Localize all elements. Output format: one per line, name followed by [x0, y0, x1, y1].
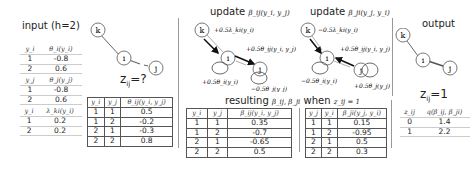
table-row: 20.6	[20, 95, 82, 105]
header-yi: y_i	[88, 98, 105, 108]
cell: 1	[187, 118, 208, 128]
header-yj: y_j	[306, 109, 322, 119]
header-theta-ij: θ_ij(y_i, y_j)	[121, 98, 173, 108]
header-yi: y_i	[321, 109, 337, 119]
cell: 2	[207, 148, 228, 158]
theta-ij-table: y_iy_jθ_ij(y_i, y_j) 110.5 12-0.2 21-0.3…	[87, 97, 173, 147]
label-ij: +0.5θ_ij(y_i, y_j)	[340, 45, 391, 53]
beta-ij-table: y_iy_jβ_ij(y_i, y_j) 110.35 12-0.7 21-0.…	[186, 108, 292, 158]
header-beta-ji: β_ji(y_j, y_i)	[337, 109, 386, 119]
node-i-label: i	[227, 54, 230, 63]
title-math: β_ij(y_i, y_j)	[248, 9, 289, 17]
cell: 0.15	[337, 118, 386, 128]
z-value: =1	[430, 87, 448, 101]
table-row: 210.5	[306, 138, 387, 148]
output-z-label: zij=1	[420, 87, 448, 103]
input-graph: k i j	[85, 18, 165, 78]
cell: 0.6	[40, 64, 82, 74]
beta-ji-table: y_jy_iβ_ji(y_j, y_i) 110.15 12-0.95 210.…	[305, 108, 387, 158]
table-row: 220.8	[88, 137, 173, 147]
cell: 2	[20, 95, 40, 105]
header-theta-j: θ_j(y_j)	[40, 76, 82, 85]
header-theta-i: θ_i(y_i)	[40, 45, 82, 54]
cell: 1	[20, 54, 40, 64]
z-value: =?	[130, 72, 146, 86]
edge-i-j	[236, 61, 246, 65]
cell: 0	[400, 117, 419, 127]
update-left-graph: k i j +0.5λ_ki(y_i) +0.5θ_ij(y_i, y_j) +…	[190, 20, 310, 92]
node-i-label: i	[123, 54, 126, 63]
cell: 0.2	[38, 116, 82, 126]
table-row: 1-0.8	[20, 54, 82, 64]
theta-i-table: y_iθ_i(y_i) 1-0.8 20.6	[20, 45, 82, 74]
header-lambda-ki: λ_ki(y_i)	[38, 107, 82, 116]
cell: 1	[207, 118, 228, 128]
cell: 1	[104, 107, 121, 117]
table-row: 12.2	[400, 127, 470, 137]
table-row: 110.5	[88, 107, 173, 117]
cell: 0.5	[228, 148, 292, 158]
table-row: 12-0.2	[88, 117, 173, 127]
table-row: 10.2	[20, 116, 82, 126]
edge-i-j	[334, 61, 350, 67]
cell: 0.5	[121, 107, 173, 117]
label-ki: −0.5λ_ki(y_i)	[318, 26, 359, 34]
cell: 1	[306, 118, 322, 128]
table-row: 12-0.7	[187, 128, 292, 138]
cell: 1	[20, 85, 40, 95]
message-arrow-i-j	[235, 56, 254, 64]
cell: 0.2	[38, 126, 82, 136]
title-prefix: update	[310, 6, 348, 17]
table-row: 01.4	[400, 117, 470, 127]
cell: 2	[306, 148, 322, 158]
cell: -0.8	[40, 85, 82, 95]
node-k-label: k	[200, 26, 205, 35]
input-title: input (h=2)	[22, 20, 80, 31]
cell: 2	[88, 137, 105, 147]
node-j-label: j	[448, 64, 451, 73]
edge-k-i	[99, 33, 121, 57]
label-i-self: +0.5θ_i(y_i)	[202, 78, 239, 86]
cell: -0.8	[40, 54, 82, 64]
label-j-self: −0.5θ_j(y_j)	[251, 85, 288, 92]
table-row: 220.5	[187, 148, 292, 158]
update-beta-ji-title: update β_ji(y_j, y_i)	[310, 6, 390, 17]
header-yi: y_i	[20, 107, 38, 116]
caption-math: β_ij, β_ji	[272, 98, 300, 106]
cell: 1.4	[419, 117, 470, 127]
separator-left	[178, 18, 179, 148]
caption-cond: z_ij = 1	[334, 98, 360, 106]
update-beta-ij-title: update β_ij(y_i, y_j)	[210, 6, 290, 17]
input-z-label: zij=?	[120, 72, 147, 88]
cell: 0.3	[337, 148, 386, 158]
node-k-label: k	[96, 26, 101, 35]
theta-j-table: y_jθ_j(y_j) 1-0.8 20.6	[20, 76, 82, 105]
header-yj: y_j	[104, 98, 121, 108]
title-math: β_ji(y_j, y_i)	[348, 9, 389, 17]
header-beta-ij: β_ij(y_i, y_j)	[228, 109, 292, 119]
label-i-self: −0.5θ_i(y_i)	[301, 77, 338, 85]
q-table: z_ijq(β_ij, β_ji) 01.4 12.2	[400, 108, 470, 137]
label-j-self: +0.5θ_j(y_j)	[354, 82, 391, 90]
header-q: q(β_ij, β_ji)	[419, 108, 470, 117]
cell: 2	[321, 148, 337, 158]
table-row: 12-0.95	[306, 128, 387, 138]
cell: 2	[20, 126, 38, 136]
table-row: 110.15	[306, 118, 387, 128]
node-j-label: j	[258, 65, 261, 74]
cell: 2.2	[419, 127, 470, 137]
label-ki: +0.5λ_ki(y_i)	[214, 26, 255, 34]
header-yj: y_j	[207, 109, 228, 119]
header-yj: y_j	[20, 76, 40, 85]
node-j-label: j	[154, 64, 157, 73]
table-row: 110.35	[187, 118, 292, 128]
node-k-label: k	[401, 31, 406, 40]
node-k-label: k	[306, 26, 311, 35]
caption-prefix: resulting	[225, 95, 272, 106]
cell: 0.8	[121, 137, 173, 147]
header-yi: y_i	[20, 45, 40, 54]
cell: 1	[321, 118, 337, 128]
edge-i-j-partial	[144, 65, 148, 66]
cell: 1	[88, 107, 105, 117]
table-row: 20.2	[20, 126, 82, 136]
